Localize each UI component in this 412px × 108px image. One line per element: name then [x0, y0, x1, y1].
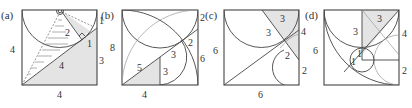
label-right: 3: [99, 55, 104, 66]
panel-label-c: (c): [205, 9, 218, 22]
panel-a: (a): [1, 8, 104, 101]
label-bottom: 4: [142, 89, 147, 100]
geometry-figure: (a): [0, 0, 412, 108]
label-inner-2: 2: [188, 37, 193, 48]
label-inner-2: 2: [285, 50, 290, 61]
label-circle-1a: 1: [351, 56, 356, 67]
panel-label-d: (d): [305, 9, 318, 22]
label-top-shade: 3: [377, 13, 382, 24]
label-right-4: 4: [301, 26, 306, 37]
label-left: 4: [10, 44, 15, 55]
label-right: 6: [200, 53, 205, 64]
label-hyp-5: 5: [137, 62, 142, 73]
label-inner-1: 1: [87, 38, 92, 49]
label-hyp: 4: [59, 60, 64, 71]
label-left: 6: [313, 45, 318, 56]
label-vert-3: 3: [163, 66, 168, 77]
label-inner-2: 2: [65, 27, 70, 38]
panel-c: (c) 6 6 2 3 3 4 2: [205, 9, 307, 100]
label-left: 8: [110, 42, 115, 53]
label-circle-1b: 1: [357, 48, 362, 59]
panel-label-b: (b): [101, 9, 114, 22]
label-bottom: 6: [258, 89, 263, 100]
label-left-3: 3: [353, 26, 358, 37]
semicircle-top: [122, 10, 198, 48]
small-circle: [57, 8, 64, 15]
label-right-mid: 4: [402, 28, 407, 39]
panel-b: (b) 8 4 6 2 2 3 3 5: [101, 9, 205, 100]
panel-label-a: (a): [1, 9, 14, 22]
label-left-3: 3: [266, 27, 271, 38]
label-bottom: 4: [57, 89, 62, 100]
panel-d: (d) 6 2 4 3 3 1 1: [305, 9, 407, 85]
label-right: 2: [302, 65, 307, 76]
label-diag-3: 3: [171, 49, 176, 60]
label-left: 6: [213, 45, 218, 56]
label-top-shade: 3: [280, 13, 285, 24]
label-right-bottom: 2: [402, 65, 407, 76]
